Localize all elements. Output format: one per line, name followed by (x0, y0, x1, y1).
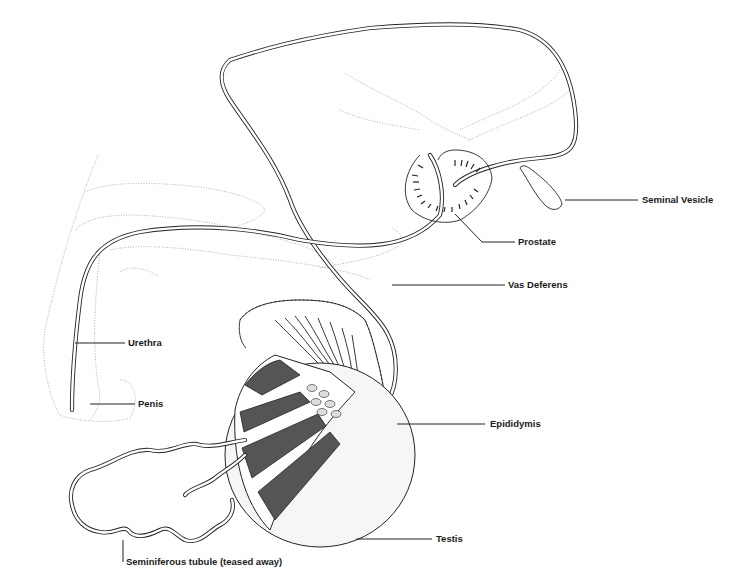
label-seminal-vesicle: Seminal Vesicle (642, 195, 713, 205)
label-penis: Penis (138, 399, 163, 409)
label-epididymis: Epididymis (490, 419, 541, 429)
label-testis: Testis (436, 534, 463, 544)
label-seminiferous-tubule: Seminiferous tubule (teased away) (126, 557, 282, 567)
label-urethra: Urethra (128, 338, 162, 348)
prostate-gland (405, 150, 492, 222)
label-vas-deferens: Vas Deferens (508, 280, 568, 290)
testis (225, 355, 415, 547)
label-prostate: Prostate (518, 237, 556, 247)
seminal-vesicle (520, 166, 562, 210)
reproductive-system-illustration (0, 0, 733, 586)
seminiferous-tubule (71, 440, 245, 541)
